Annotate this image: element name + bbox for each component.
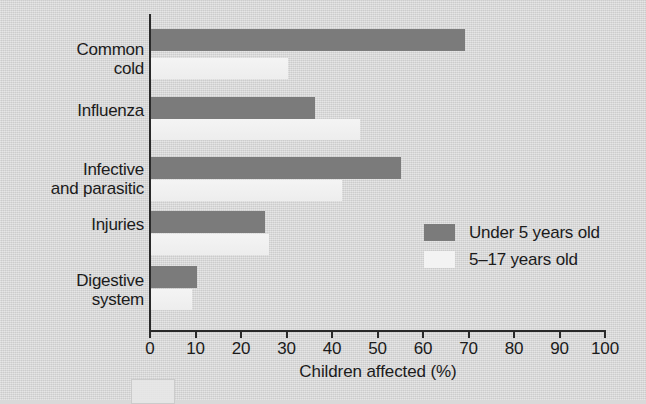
x-tick-label-10: 10 [186, 339, 205, 359]
x-tick-10 [195, 331, 197, 338]
legend-item-under-5: Under 5 years old [424, 219, 634, 246]
x-tick-label-100: 100 [591, 339, 619, 359]
x-tick-label-60: 60 [414, 339, 433, 359]
x-tick-label-30: 30 [277, 339, 296, 359]
bar-5-to-17-influenza [151, 119, 360, 140]
bar-5-to-17-common-cold [151, 58, 288, 79]
x-tick-50 [377, 331, 379, 338]
legend-swatch-under-5 [424, 224, 455, 241]
x-axis-title: Children affected (%) [150, 362, 606, 382]
chart-legend: Under 5 years old 5–17 years old [424, 219, 634, 273]
x-tick-100 [604, 331, 606, 338]
x-tick-label-0: 0 [145, 339, 154, 359]
bar-5-to-17-injuries [151, 234, 269, 255]
legend-label-5-to-17: 5–17 years old [469, 250, 578, 270]
x-tick-60 [422, 331, 424, 338]
x-tick-20 [240, 331, 242, 338]
category-label-injuries: Injuries [91, 215, 144, 234]
bar-under-5-digestive-system [151, 266, 197, 288]
x-tick-30 [286, 331, 288, 338]
bar-under-5-injuries [151, 211, 265, 233]
legend-label-under-5: Under 5 years old [469, 223, 600, 243]
x-tick-0 [149, 331, 151, 338]
bar-5-to-17-digestive-system [151, 289, 192, 310]
category-label-infective-and-parasitic: Infective and parasitic [51, 160, 144, 198]
x-tick-label-20: 20 [232, 339, 251, 359]
category-label-common-cold: Common cold [77, 40, 144, 78]
x-tick-40 [331, 331, 333, 338]
x-tick-label-40: 40 [323, 339, 342, 359]
legend-swatch-5-to-17 [424, 251, 455, 268]
scan-artifact-rectangle [131, 379, 175, 404]
x-tick-label-70: 70 [459, 339, 478, 359]
x-tick-label-80: 80 [505, 339, 524, 359]
legend-item-5-to-17: 5–17 years old [424, 246, 634, 273]
x-tick-label-50: 50 [368, 339, 387, 359]
category-label-digestive-system: Digestive system [76, 271, 144, 309]
bar-under-5-common-cold [151, 29, 465, 51]
x-tick-70 [468, 331, 470, 338]
bar-under-5-infective-and-parasitic [151, 157, 401, 179]
x-tick-label-90: 90 [550, 339, 569, 359]
x-tick-90 [559, 331, 561, 338]
category-label-influenza: Influenza [77, 101, 144, 120]
x-tick-80 [513, 331, 515, 338]
bar-5-to-17-infective-and-parasitic [151, 180, 342, 201]
bar-under-5-influenza [151, 97, 315, 119]
